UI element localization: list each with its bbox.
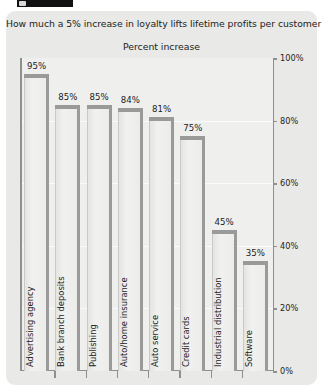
bar-side-shadow — [234, 230, 237, 371]
bar-value-label: 45% — [212, 217, 237, 227]
y-axis-tick-label: 60% — [280, 178, 298, 188]
bar-side-shadow — [171, 117, 174, 371]
y-axis-tick — [273, 58, 277, 60]
y-axis-tick-label: 40% — [280, 241, 298, 251]
bar-side-shadow — [46, 74, 49, 371]
y-axis-left-line — [20, 58, 22, 371]
category-label: Credit cards — [181, 316, 191, 367]
x-axis-tick — [211, 371, 212, 378]
bar-side-shadow — [140, 108, 143, 371]
x-axis-tick — [148, 371, 149, 378]
category-label: Advertising agency — [25, 286, 35, 367]
page-title: How much a 5% increase in loyalty lifts … — [6, 18, 317, 29]
y-axis-tick-label: 20% — [280, 303, 298, 313]
category-label: Industrial distribution — [213, 277, 223, 367]
y-axis-right-line — [273, 58, 275, 371]
y-axis-tick-label: 80% — [280, 116, 298, 126]
category-label: Software — [244, 330, 254, 367]
category-label: Bank branch deposits — [56, 276, 66, 367]
cut-off-header-fragment — [17, 0, 73, 7]
bar-value-label: 75% — [180, 123, 205, 133]
bar-side-shadow — [265, 261, 268, 371]
y-axis-tick-label: 100% — [280, 53, 303, 63]
y-axis-tick — [273, 183, 277, 185]
x-axis-tick — [179, 371, 180, 378]
x-axis-tick — [117, 371, 118, 378]
y-axis-tick — [273, 308, 277, 310]
bar-top-cap — [87, 105, 112, 109]
x-axis-tick — [86, 371, 87, 378]
bar-side-shadow — [77, 105, 80, 371]
bar-top-cap — [55, 105, 80, 109]
bar-side-shadow — [109, 105, 112, 371]
bar-value-label: 84% — [118, 95, 143, 105]
bar-top-cap — [243, 261, 268, 265]
plot-area: 0%20%40%60%80%100% 95%85%85%84%81%75%45%… — [20, 58, 274, 371]
y-axis-tick — [273, 246, 277, 248]
bar-top-cap — [118, 108, 143, 112]
figure-panel: How much a 5% increase in loyalty lifts … — [6, 11, 317, 385]
header-fragment-notch — [19, 1, 26, 6]
bar-top-cap — [24, 74, 49, 78]
bar-value-label: 85% — [87, 92, 112, 102]
bar-value-label: 81% — [149, 104, 174, 114]
bar-value-label: 35% — [243, 248, 268, 258]
bar-top-cap — [212, 230, 237, 234]
chart-subtitle: Percent increase — [6, 41, 317, 52]
bar-top-cap — [180, 136, 205, 140]
category-label: Auto service — [150, 315, 160, 367]
y-axis-tick-label: 0% — [280, 366, 293, 376]
bar-value-label: 85% — [55, 92, 80, 102]
bar-value-label: 95% — [24, 61, 49, 71]
x-axis-tick — [54, 371, 55, 378]
category-label: Publishing — [88, 324, 98, 367]
y-axis-tick — [273, 121, 277, 123]
x-axis-tick — [242, 371, 243, 378]
bar-side-shadow — [202, 136, 205, 371]
bar-top-cap — [149, 117, 174, 121]
category-label: Auto/home insurance — [119, 277, 129, 367]
y-axis-tick — [273, 371, 277, 373]
